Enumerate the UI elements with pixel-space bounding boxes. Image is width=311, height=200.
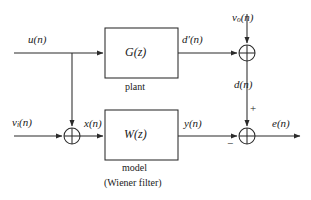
model-block-label: W(z) [124,128,147,140]
plant-block-caption: plant [125,82,145,92]
block-diagram: u(n) νi(n) νo(n) x(n) d′(n) d(n) y(n) e(… [0,0,311,200]
signal-label-nu-i: νi(n) [12,117,32,129]
signal-label-u: u(n) [28,34,46,45]
signal-label-y: y(n) [184,118,202,129]
signal-label-e: e(n) [272,118,290,129]
plant-block-label: G(z) [125,46,146,58]
sign-plus: + [250,103,256,114]
signal-label-x: x(n) [84,118,102,129]
nu-o-tail: (n) [241,11,254,23]
signal-label-d: d(n) [234,79,252,90]
diagram-canvas [0,0,311,200]
signal-label-nu-o: νo(n) [232,12,253,24]
signal-label-d-prime: d′(n) [182,34,203,45]
nu-i-tail: (n) [19,116,32,128]
sign-minus: − [227,138,233,149]
model-block-caption-secondary: (Wiener filter) [104,178,162,188]
model-block-caption: model [122,163,147,173]
